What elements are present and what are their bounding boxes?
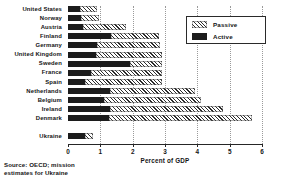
x-axis-tick (197, 144, 198, 147)
bar-segment-active (68, 70, 91, 76)
category-label: Norway (0, 15, 62, 21)
bar-segment-active (68, 52, 96, 58)
bar-row (68, 115, 252, 121)
bar-segment-active (68, 115, 109, 121)
bar-segment-passive (111, 33, 159, 39)
bar-segment-passive (130, 61, 162, 67)
x-axis-tick (262, 144, 263, 147)
bar-segment-active (68, 79, 85, 85)
category-label: United Kingdom (0, 51, 62, 57)
bar-segment-active (68, 133, 85, 139)
x-axis-tick (165, 144, 166, 147)
bar-segment-passive (91, 70, 161, 76)
chart-figure: United StatesNorwayAustriaFinlandGermany… (0, 0, 286, 188)
bar-segment-passive (81, 15, 99, 21)
bar-segment-passive (97, 42, 160, 48)
category-label: Ukraine (0, 133, 62, 139)
legend-label-active: Active (213, 33, 233, 41)
category-label: Finland (0, 33, 62, 39)
bar-segment-passive (109, 115, 252, 121)
bar-segment-passive (96, 52, 161, 58)
bar-row (68, 106, 223, 112)
source-note: Source: OECD; mission estimates for Ukra… (4, 161, 134, 177)
bar-segment-active (68, 15, 81, 21)
gridline (165, 6, 167, 144)
category-label: France (0, 69, 62, 75)
category-label: Belgium (0, 97, 62, 103)
x-axis-tick (133, 144, 134, 147)
bar-segment-active (68, 42, 97, 48)
bar-row (68, 88, 195, 94)
bar-row (68, 133, 93, 139)
bar-row (68, 42, 160, 48)
bar-segment-passive (85, 133, 92, 139)
source-note-line-1: Source: OECD; mission (4, 161, 134, 169)
bar-segment-passive (80, 6, 97, 12)
legend-swatch-passive-icon (192, 21, 207, 28)
bar-segment-passive (104, 97, 200, 103)
category-label: Netherlands (0, 88, 62, 94)
bar-segment-passive (83, 24, 126, 30)
bar-segment-active (68, 6, 80, 12)
bar-segment-active (68, 33, 111, 39)
bar-row (68, 15, 99, 21)
x-axis-tick-label: 1 (90, 148, 110, 156)
x-axis-tick-label: 2 (123, 148, 143, 156)
x-axis-tick (230, 144, 231, 147)
bar-row (68, 52, 162, 58)
category-label: Spain (0, 79, 62, 85)
category-label: Sweden (0, 60, 62, 66)
category-label: Austria (0, 24, 62, 30)
bar-segment-active (68, 106, 110, 112)
x-axis-tick-label: 4 (187, 148, 207, 156)
category-label: Ireland (0, 106, 62, 112)
category-label: United States (0, 6, 62, 12)
bar-row (68, 33, 159, 39)
category-label: Denmark (0, 115, 62, 121)
bar-row (68, 24, 126, 30)
x-axis-tick (100, 144, 101, 147)
legend-item-active: Active (192, 33, 264, 41)
legend-item-passive: Passive (192, 21, 264, 29)
legend-swatch-active-icon (192, 33, 207, 40)
bar-row (68, 79, 162, 85)
x-axis-tick-label: 3 (155, 148, 175, 156)
x-axis-tick-label: 0 (58, 148, 78, 156)
bar-segment-active (68, 88, 110, 94)
category-axis-labels: United StatesNorwayAustriaFinlandGermany… (0, 6, 64, 144)
legend-label-passive: Passive (213, 21, 237, 29)
bar-row (68, 97, 201, 103)
bar-segment-active (68, 24, 83, 30)
category-label: Germany (0, 42, 62, 48)
bar-segment-active (68, 61, 130, 67)
chart-legend: Passive Active (186, 16, 266, 44)
bar-row (68, 61, 162, 67)
x-axis-tick-label: 6 (252, 148, 272, 156)
source-note-line-2: estimates for Ukraine (4, 169, 134, 177)
bar-row (68, 6, 97, 12)
bar-segment-passive (110, 106, 223, 112)
x-axis-tick-label: 5 (220, 148, 240, 156)
x-axis-tick (68, 144, 69, 147)
bar-segment-passive (110, 88, 195, 94)
bar-segment-active (68, 97, 104, 103)
bar-segment-passive (85, 79, 161, 85)
bar-row (68, 70, 162, 76)
